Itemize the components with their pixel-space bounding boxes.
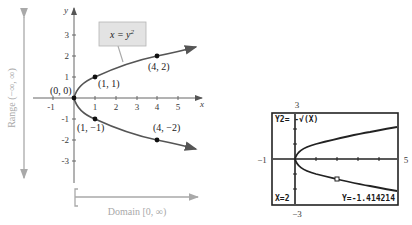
- trace-cursor: [335, 177, 339, 181]
- x-tick-label: 5: [176, 102, 181, 112]
- calc-cursor-y: Y=-1.414214: [342, 194, 395, 203]
- figure: Range (−∞, ∞) Domain [0, ∞) x y -1 1 2 3…: [0, 0, 412, 225]
- point-1-1: [93, 75, 98, 80]
- x-tick-label: -1: [47, 102, 55, 112]
- parabola-upper-branch: [74, 47, 196, 98]
- point-label: (4, −2): [153, 122, 180, 134]
- point-4-neg2: [155, 138, 160, 143]
- x-tick-label: 2: [114, 102, 119, 112]
- domain-arrow: Domain [0, ∞): [75, 189, 198, 218]
- window-xmin: −1: [257, 155, 267, 165]
- x-axis-label: x: [199, 99, 204, 109]
- y-tick-label: 2: [65, 51, 70, 61]
- window-ymax: 3: [295, 100, 300, 110]
- y-tick-label: -3: [62, 156, 70, 166]
- point-4-2: [155, 54, 160, 59]
- point-label: (1, −1): [77, 122, 104, 134]
- window-xmax: 5: [404, 155, 409, 165]
- point-label: (1, 1): [98, 78, 120, 90]
- range-label: Range (−∞, ∞): [6, 68, 18, 128]
- x-tick-label: 4: [155, 102, 160, 112]
- equation-callout: x = y2: [99, 22, 146, 62]
- y-tick-label: -2: [62, 135, 70, 145]
- parabola-graph: Range (−∞, ∞) Domain [0, ∞) x y -1 1 2 3…: [6, 5, 204, 218]
- window-ymin: −3: [292, 209, 302, 219]
- calc-cursor-x: X=2: [275, 194, 290, 203]
- y-axis-label: y: [63, 5, 68, 15]
- y-tick-label: -1: [62, 114, 70, 124]
- x-tick-label: 3: [135, 102, 140, 112]
- y-tick-label: 3: [65, 30, 70, 40]
- range-arrow: Range (−∞, ∞): [6, 17, 24, 178]
- point-origin: [72, 96, 77, 101]
- calculator-graph: 3 −3 −1 5 Y2= -√(X) X=2 Y=-1.414214: [257, 100, 409, 219]
- calc-function-label: Y2= -√(X): [275, 115, 318, 124]
- y-tick-label: 1: [65, 72, 70, 82]
- point-label: (0, 0): [50, 85, 72, 97]
- domain-label: Domain [0, ∞): [108, 206, 167, 218]
- point-label: (4, 2): [148, 61, 170, 73]
- point-1-neg1: [93, 117, 98, 122]
- x-tick-label: 1: [93, 102, 98, 112]
